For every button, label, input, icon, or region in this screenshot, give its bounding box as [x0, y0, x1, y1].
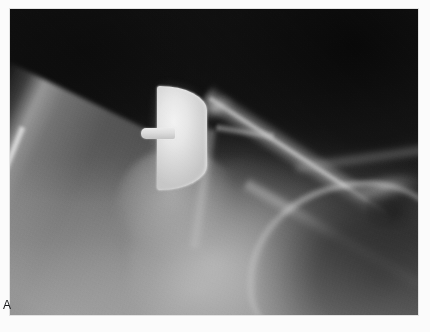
soft-tissue-band-inferior	[10, 9, 418, 315]
radiograph-image	[10, 9, 418, 315]
panel-label: A	[3, 297, 17, 313]
implant-stem	[141, 128, 175, 139]
figure-panel: A	[0, 0, 430, 332]
